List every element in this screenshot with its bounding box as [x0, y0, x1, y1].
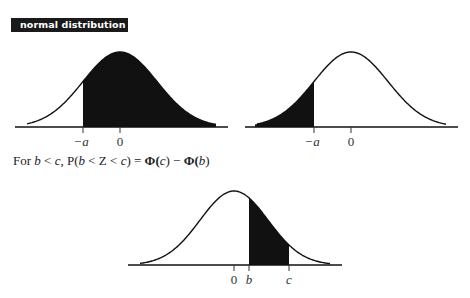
var-b: b — [34, 153, 41, 168]
tick-label: c — [286, 272, 292, 287]
tick-label: −a — [73, 134, 89, 149]
minus: − — [173, 153, 180, 168]
shaded-area — [255, 82, 314, 127]
formula-prefix: For — [13, 153, 31, 168]
prob-close: ) — [126, 153, 130, 168]
tick-label: 0 — [231, 272, 238, 287]
normal-distribution-diagrams: −a0 −a0 0bc — [0, 0, 470, 298]
phi-open: Φ( — [184, 153, 199, 168]
tick-label: 0 — [117, 134, 124, 149]
var-z: Z — [99, 153, 107, 168]
equals: = — [134, 153, 141, 168]
bell-curve — [140, 191, 330, 264]
shaded-area — [249, 198, 289, 265]
shaded-area — [83, 52, 216, 127]
phi-close: ) — [205, 153, 209, 168]
comma: , — [60, 153, 63, 168]
tick-label: 0 — [348, 134, 355, 149]
tick-label: −a — [304, 134, 320, 149]
diagram-upper-tail: −a0 — [15, 52, 228, 149]
diagram-lower-tail: −a0 — [245, 52, 458, 149]
prob-open: P( — [67, 153, 79, 168]
diagram-between-b-c: 0bc — [128, 191, 342, 287]
less-than: < — [88, 153, 95, 168]
probability-formula: For b < c, P(b < Z < c) = Φ(c) − Φ(b) — [13, 153, 210, 169]
phi-close: ) — [166, 153, 170, 168]
phi-open: Φ( — [145, 153, 160, 168]
tick-label: b — [246, 272, 253, 287]
